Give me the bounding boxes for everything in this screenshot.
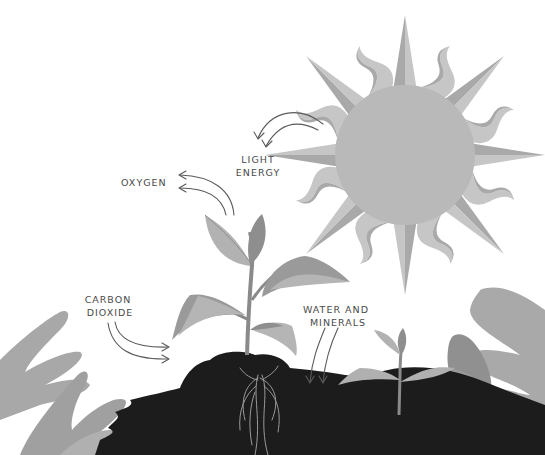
sun-ray-spike	[306, 56, 366, 107]
sun-ray-spike	[393, 222, 405, 295]
photosynthesis-diagram: LIGHT ENERGY OXYGEN CARBON DIOXIDE WATER…	[0, 0, 545, 455]
leaf	[248, 214, 266, 265]
light-label-line-2: ENERGY	[236, 167, 280, 178]
sun-ray-spike	[472, 155, 545, 167]
carbon-dioxide-label: CARBON DIOXIDE	[85, 294, 136, 318]
sun-ray-spike	[306, 194, 357, 254]
carbon-dioxide-arrows	[108, 322, 169, 363]
water-label-line-1: WATER AND	[303, 304, 369, 315]
water-minerals-label: WATER AND MINERALS	[303, 304, 373, 328]
sun-ray-spike	[453, 56, 504, 116]
sun-ray-spike	[393, 15, 405, 88]
carbon-label-line-2: DIOXIDE	[87, 307, 134, 318]
light-energy-label: LIGHT ENERGY	[236, 154, 280, 178]
sun-ray-spike	[405, 15, 417, 88]
oxygen-arrows	[179, 171, 234, 215]
carbon-label-line-1: CARBON	[85, 294, 132, 305]
leaf	[205, 215, 250, 266]
water-label-line-2: MINERALS	[310, 317, 366, 328]
sun-ray-spike	[405, 222, 417, 295]
sun	[265, 15, 545, 295]
light-label-line-1: LIGHT	[241, 154, 274, 165]
sun-ray-spike	[472, 143, 545, 155]
oxygen-label: OXYGEN	[121, 177, 167, 188]
sun-core	[335, 85, 475, 225]
sun-ray-spike	[444, 203, 504, 254]
